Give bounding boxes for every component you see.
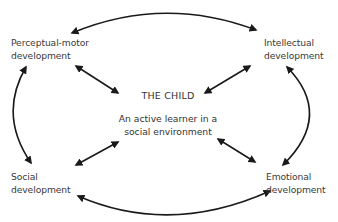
node-perceptual-motor: Perceptual-motor development <box>11 37 89 62</box>
arc-perceptual-intellectual <box>72 13 256 33</box>
node-label-line2: development <box>11 184 71 197</box>
node-label-line1: Emotional <box>266 171 326 184</box>
node-label-line2: development <box>264 50 324 63</box>
center-subtitle-line2: social environment <box>100 126 236 139</box>
node-label-line2: development <box>11 50 89 63</box>
center-subtitle-line1: An active learner in a <box>100 113 236 126</box>
center-subtitle: An active learner in a social environmen… <box>100 113 236 138</box>
node-label-line1: Social <box>11 171 71 184</box>
link-perceptual-center <box>76 66 118 93</box>
link-intellectual-center <box>205 66 250 93</box>
node-emotional: Emotional development <box>266 171 326 196</box>
arc-social-emotional <box>78 191 270 215</box>
node-social: Social development <box>11 171 71 196</box>
link-emotional-center <box>218 139 255 162</box>
link-social-center <box>76 142 118 165</box>
center-title: THE CHILD <box>118 90 218 101</box>
node-label-line1: Intellectual <box>264 37 324 50</box>
node-label-line2: development <box>266 184 326 197</box>
node-label-line1: Perceptual-motor <box>11 37 89 50</box>
node-intellectual: Intellectual development <box>264 37 324 62</box>
child-development-diagram: Perceptual-motor development Intellectua… <box>0 0 338 222</box>
arc-intellectual-emotional <box>283 67 310 165</box>
arc-perceptual-social <box>13 67 31 163</box>
